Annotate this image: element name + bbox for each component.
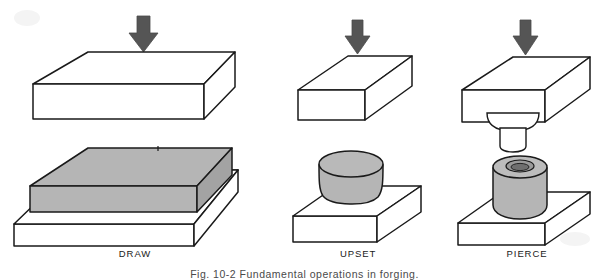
draw-upper-die — [33, 52, 235, 119]
operation-label-upset: UPSET — [313, 248, 403, 259]
pierce-hole — [506, 160, 534, 172]
draw-workpiece — [30, 148, 232, 212]
pierce-illustration — [440, 0, 609, 280]
down-arrow-icon — [345, 20, 370, 54]
down-arrow-icon — [513, 20, 538, 55]
operation-column-pierce: PIERCE — [440, 0, 609, 280]
upset-workpiece — [319, 151, 383, 204]
operation-column-upset: UPSET — [290, 0, 440, 280]
upset-illustration — [290, 0, 440, 280]
pierce-punch — [487, 113, 539, 152]
down-arrow-icon — [129, 16, 158, 52]
forging-operations-figure: DRAW — [0, 0, 609, 280]
upset-upper-die — [298, 56, 412, 120]
operation-column-draw: DRAW — [0, 0, 290, 280]
figure-caption: Fig. 10-2 Fundamental operations in forg… — [0, 268, 609, 280]
operation-label-pierce: PIERCE — [482, 248, 572, 259]
draw-illustration — [0, 0, 290, 280]
pierce-upper-die — [462, 57, 590, 122]
operation-label-draw: DRAW — [95, 248, 175, 259]
